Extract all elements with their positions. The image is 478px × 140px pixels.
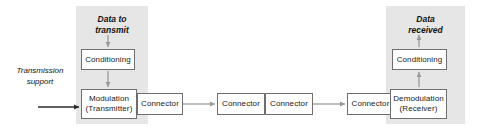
- block-demodulation-sublabel: (Receiver): [400, 104, 438, 114]
- block-connector-4-label: Connector: [352, 99, 390, 109]
- block-connector-3-label: Connector: [270, 99, 308, 109]
- block-connector-1[interactable]: Connector: [137, 93, 183, 115]
- label-data-received-line2: received: [408, 25, 443, 35]
- block-modulation-sublabel: (Transmitter): [86, 104, 133, 114]
- label-data-to-transmit: Data to transmit: [76, 14, 148, 35]
- transmission-chain-diagram: Data to transmit Data received Transmiss…: [0, 0, 478, 140]
- block-modulation-transmitter[interactable]: Modulation (Transmitter): [81, 89, 137, 119]
- label-data-to-transmit-line2: transmit: [95, 25, 129, 35]
- block-demodulation-receiver[interactable]: Demodulation (Receiver): [390, 89, 447, 119]
- block-connector-1-label: Connector: [141, 99, 179, 109]
- block-demodulation-label: Demodulation: [393, 94, 444, 104]
- label-data-to-transmit-line1: Data to: [98, 14, 127, 24]
- block-connector-3[interactable]: Connector: [265, 93, 313, 115]
- label-data-received: Data received: [386, 14, 465, 35]
- label-transmission-support-line1: Transmission: [17, 66, 64, 75]
- block-conditioning-receiver[interactable]: Conditioning: [392, 49, 447, 70]
- block-connector-4[interactable]: Connector: [347, 93, 394, 115]
- label-transmission-support: Transmission support: [4, 66, 76, 87]
- block-conditioning-transmitter[interactable]: Conditioning: [81, 49, 135, 70]
- block-connector-2-label: Connector: [222, 99, 260, 109]
- label-data-received-line1: Data: [416, 14, 434, 24]
- label-transmission-support-line2: support: [27, 77, 54, 86]
- block-modulation-label: Modulation: [89, 94, 129, 104]
- block-conditioning-receiver-label: Conditioning: [397, 55, 443, 65]
- block-conditioning-transmitter-label: Conditioning: [85, 55, 131, 65]
- block-connector-2[interactable]: Connector: [217, 93, 265, 115]
